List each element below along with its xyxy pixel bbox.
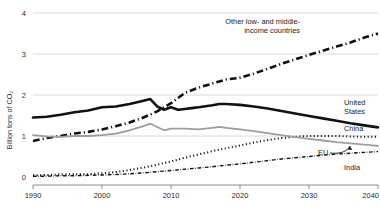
x-tick-label: 2020 (232, 191, 249, 200)
x-tick-label: 2010 (163, 191, 180, 200)
series-line (33, 99, 378, 127)
india-label: India (344, 163, 361, 172)
series-line (33, 124, 378, 146)
y-tick-label: 2 (22, 91, 26, 100)
other-countries-label: Other low- and middle-income countries (225, 17, 300, 35)
chart-canvas: 01234 199020002010202020302040 Other low… (0, 0, 380, 211)
y-tick-label: 3 (22, 50, 26, 59)
y-tick-labels-group: 01234 (22, 9, 26, 182)
annotations-group: Other low- and middle-income countriesUn… (225, 17, 365, 172)
x-tick-labels-group: 199020002010202020302040 (25, 191, 379, 200)
y-axis-title: Billion tons of CO₂ (5, 91, 14, 150)
china-label: China (344, 124, 364, 133)
eu-pointer-arrowhead (347, 146, 352, 150)
x-tick-label: 2030 (301, 191, 318, 200)
x-tick-label: 2000 (94, 191, 111, 200)
series-line (33, 34, 378, 141)
eu-pointer-arrow (330, 146, 350, 153)
gridlines-group (33, 13, 378, 136)
eu-label: EU (318, 148, 328, 157)
co2-emissions-line-chart: 01234 199020002010202020302040 Other low… (0, 0, 380, 211)
united-states-label: UnitedStates (344, 98, 365, 116)
x-tick-label: 1990 (25, 191, 42, 200)
x-tick-label: 2040 (362, 191, 379, 200)
y-tick-label: 0 (22, 173, 26, 182)
y-tick-label: 4 (22, 9, 26, 18)
y-tick-label: 1 (22, 132, 26, 141)
x-axis-group (33, 185, 378, 189)
